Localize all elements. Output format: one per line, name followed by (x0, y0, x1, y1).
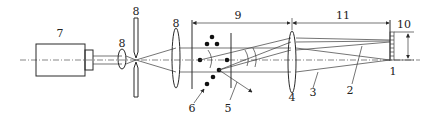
optical-setup-diagram: 7 8 8 8 9 6 5 (0, 0, 434, 118)
label-scattered-ray: 5 (225, 102, 232, 115)
label-region: 9 (235, 9, 242, 22)
label-collimator: 8 (173, 17, 180, 30)
label-receiving-lens: 4 (289, 91, 296, 104)
label-detector: 1 (390, 65, 397, 78)
label-small-lens: 8 (119, 37, 126, 50)
detector-array (390, 20, 394, 61)
label-aperture: 8 (133, 5, 140, 18)
label-particles: 6 (189, 102, 196, 115)
label-detector-height: 10 (397, 18, 411, 31)
label-focal-length: 11 (336, 9, 350, 22)
small-lens (118, 49, 126, 69)
scattered-ray (219, 70, 252, 92)
receiving-lens (288, 31, 296, 93)
label-unscattered-ray: 3 (310, 86, 317, 99)
collimator-lens (172, 28, 180, 88)
particles (198, 35, 230, 87)
label-camera: 7 (57, 27, 64, 40)
label-scattered-beam: 2 (347, 84, 354, 97)
pinhole-aperture (134, 18, 138, 97)
